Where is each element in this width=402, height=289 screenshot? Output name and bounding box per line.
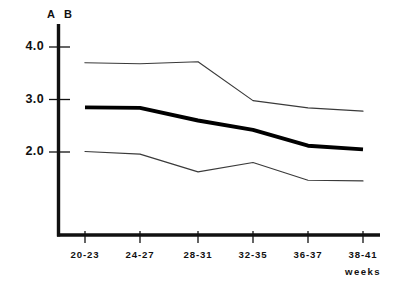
series-line-median [85,107,363,149]
series-line-upper [85,62,363,111]
series-line-lower [85,152,363,181]
group-label-b: B [64,8,72,20]
y-tick-label-3: 3.0 [0,92,44,106]
x-axis-caption: weeks [329,266,397,277]
chart-plot-area [0,0,402,289]
y-tick-label-4: 4.0 [0,39,44,53]
group-label-a: A [47,8,55,20]
x-tick-label-38-41: 38-41 [329,249,397,260]
x-tick-marks [85,231,363,243]
chart-figure: A B 4.0 3.0 2.0 20-23 24-27 28-31 32-35 … [0,0,402,289]
y-tick-label-2: 2.0 [0,144,44,158]
